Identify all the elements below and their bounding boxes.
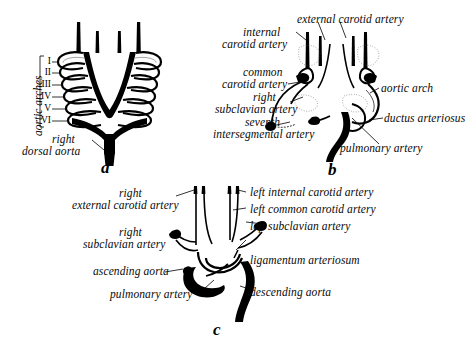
panel-b-external-carotid-label: external carotid artery — [297, 13, 404, 26]
panel-c-left-internal-carotid-label: left internal carotid artery — [250, 186, 373, 199]
panel-c-pulmonary-artery-label: pulmonary artery — [110, 288, 192, 301]
aortic-arch-development-figure — [0, 0, 475, 355]
panel-c-letter: c — [213, 320, 221, 340]
panel-c-right-external-carotid-label-line1: right — [119, 187, 142, 200]
panel-a-right-dorsal-aorta-label-line2: dorsal aorta — [22, 145, 80, 158]
panel-c-right-subclavian-label-line1: right — [119, 226, 142, 239]
panel-b-right-subclavian-label-line1: right — [253, 91, 276, 104]
panel-b-aortic-arch-label: aortic arch — [381, 82, 433, 95]
panel-b-pulmonary-artery-label: pulmonary artery — [340, 142, 422, 155]
panel-c-left-common-carotid-label: left common carotid artery — [250, 203, 376, 216]
arch-numeral-II: II — [33, 67, 51, 77]
panel-b-right-subclavian-label-line2: subclavian artery — [215, 103, 298, 116]
panel-c-right-subclavian-label-line2: subclavian artery — [83, 238, 166, 251]
arch-numeral-V: V — [33, 103, 51, 113]
panel-b-internal-carotid-label-line1: internal — [243, 26, 280, 39]
panel-c-left-subclavian-label: left subclavian artery — [250, 220, 351, 233]
arch-numeral-IV: IV — [33, 91, 51, 101]
panel-b-letter: b — [328, 160, 337, 180]
arch-numeral-VI: VI — [33, 115, 51, 125]
panel-c-ligamentum-arteriosum-label: ligamentum arteriosum — [250, 254, 360, 267]
panel-b-common-carotid-label-line2: carotid artery — [222, 78, 287, 91]
arch-numeral-I: I — [33, 56, 51, 66]
panel-b-common-carotid-label-line1: common — [243, 66, 283, 79]
panel-b-seventh-intersegmental-label-line2: intersegmental artery — [213, 128, 314, 141]
panel-a-right-dorsal-aorta-label-line1: right — [52, 133, 75, 146]
panel-b-seventh-intersegmental-label-line1: seventh — [245, 116, 280, 129]
panel-c-ascending-aorta-label: ascending aorta — [93, 265, 169, 278]
panel-b-ductus-arteriosus-label: ductus arteriosus — [384, 112, 465, 125]
arch-numeral-III: III — [33, 79, 51, 89]
panel-c-descending-aorta-label: descending aorta — [250, 286, 331, 299]
panel-c-right-external-carotid-label-line2: external carotid artery — [72, 199, 179, 212]
panel-b-internal-carotid-label-line2: carotid artery — [222, 38, 287, 51]
panel-a-letter: a — [101, 158, 110, 178]
